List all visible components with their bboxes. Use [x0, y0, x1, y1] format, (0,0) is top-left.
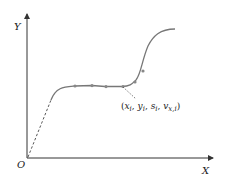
annotation-leader: [123, 87, 136, 99]
trajectory-point: [133, 80, 136, 83]
trajectory-point: [141, 69, 144, 72]
trajectory-diagram: Y X O (xi, yi, si, vx,i): [0, 0, 227, 188]
trajectory-point: [73, 84, 76, 87]
trajectory-curve: [51, 29, 175, 100]
trajectory-point: [90, 84, 93, 87]
trajectory-point: [104, 85, 107, 88]
x-axis-label: X: [201, 165, 210, 176]
origin-label: O: [17, 159, 25, 170]
point-state-label: (xi, yi, si, vx,i): [121, 101, 180, 113]
y-axis-label: Y: [14, 21, 22, 32]
dashed-initial-segment: [28, 100, 51, 157]
